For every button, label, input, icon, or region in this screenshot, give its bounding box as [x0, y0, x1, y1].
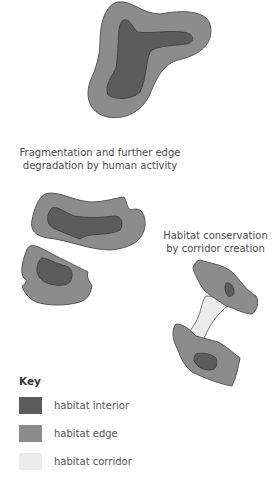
original-habitat-shape	[88, 2, 211, 118]
key-label-interior: habitat interior	[54, 400, 129, 411]
fragment-lower-shape	[22, 246, 92, 305]
key-item-corridor: habitat corridor	[19, 453, 132, 469]
fragment-upper-shape	[32, 193, 146, 250]
interior-swatch	[19, 397, 42, 414]
key-title: Key	[19, 375, 41, 387]
key-label-edge: habitat edge	[54, 428, 118, 439]
fragmentation-caption: Fragmentation and further edge degradati…	[10, 146, 190, 172]
edge-swatch	[19, 425, 42, 442]
corridor-connected-patches	[173, 260, 258, 386]
key-item-interior: habitat interior	[19, 397, 129, 413]
key-label-corridor: habitat corridor	[54, 456, 132, 467]
conservation-caption: Habitat conservation by corridor creatio…	[158, 229, 273, 255]
corridor-swatch	[19, 453, 42, 470]
key-item-edge: habitat edge	[19, 425, 118, 441]
